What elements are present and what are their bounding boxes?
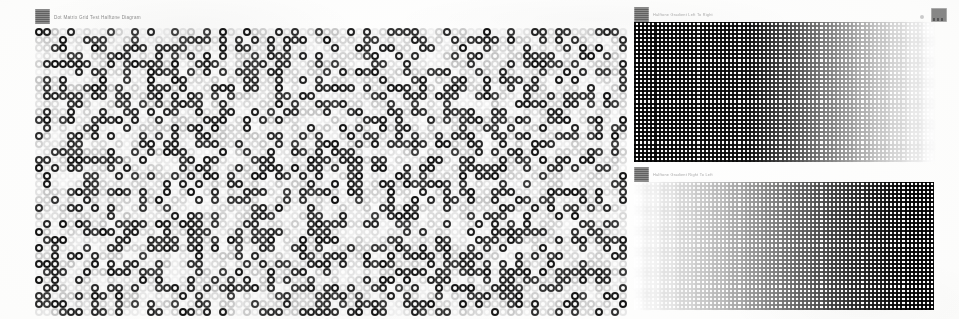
matrix-cell — [211, 204, 219, 212]
matrix-cell — [299, 156, 307, 164]
matrix-cell — [499, 236, 507, 244]
matrix-cell — [299, 252, 307, 260]
matrix-cell — [571, 44, 579, 52]
matrix-cell — [459, 140, 467, 148]
matrix-cell — [123, 100, 131, 108]
matrix-cell — [387, 252, 395, 260]
matrix-cell — [587, 220, 595, 228]
matrix-cell — [155, 236, 163, 244]
matrix-cell — [91, 260, 99, 268]
matrix-cell — [51, 28, 59, 36]
matrix-cell — [283, 268, 291, 276]
matrix-cell — [531, 196, 539, 204]
matrix-cell — [387, 276, 395, 284]
matrix-cell — [307, 228, 315, 236]
matrix-cell — [123, 68, 131, 76]
matrix-cell — [59, 132, 67, 140]
matrix-cell — [155, 164, 163, 172]
matrix-cell — [147, 212, 155, 220]
matrix-cell — [171, 188, 179, 196]
matrix-cell — [355, 100, 363, 108]
matrix-cell — [619, 260, 627, 268]
matrix-cell — [307, 140, 315, 148]
matrix-cell — [267, 44, 275, 52]
matrix-cell — [419, 68, 427, 76]
matrix-cell — [291, 68, 299, 76]
matrix-cell — [259, 236, 267, 244]
matrix-cell — [563, 84, 571, 92]
matrix-cell — [219, 164, 227, 172]
matrix-cell — [451, 172, 459, 180]
matrix-cell — [99, 36, 107, 44]
matrix-cell — [459, 124, 467, 132]
matrix-cell — [507, 292, 515, 300]
matrix-cell — [323, 268, 331, 276]
matrix-cell — [51, 52, 59, 60]
matrix-cell — [531, 300, 539, 308]
matrix-cell — [467, 44, 475, 52]
matrix-cell — [107, 164, 115, 172]
matrix-cell — [187, 228, 195, 236]
matrix-cell — [211, 300, 219, 308]
matrix-cell — [587, 156, 595, 164]
matrix-cell — [491, 252, 499, 260]
matrix-cell — [339, 116, 347, 124]
matrix-cell — [587, 244, 595, 252]
matrix-cell — [387, 292, 395, 300]
matrix-cell — [571, 84, 579, 92]
matrix-cell — [379, 68, 387, 76]
matrix-cell — [67, 292, 75, 300]
matrix-cell — [227, 84, 235, 92]
matrix-cell — [363, 228, 371, 236]
matrix-cell — [491, 60, 499, 68]
matrix-cell — [371, 180, 379, 188]
matrix-cell — [611, 300, 619, 308]
matrix-cell — [67, 148, 75, 156]
matrix-cell — [475, 188, 483, 196]
matrix-cell — [259, 140, 267, 148]
matrix-cell — [435, 36, 443, 44]
matrix-cell — [379, 92, 387, 100]
matrix-cell — [619, 36, 627, 44]
matrix-cell — [403, 300, 411, 308]
matrix-cell — [475, 308, 483, 316]
matrix-cell — [131, 44, 139, 52]
matrix-cell — [123, 268, 131, 276]
gradient-top-title: Halftone Gradient Left To Right — [653, 11, 713, 18]
matrix-cell — [435, 204, 443, 212]
matrix-cell — [203, 76, 211, 84]
matrix-cell — [171, 28, 179, 36]
matrix-cell — [395, 244, 403, 252]
matrix-cell — [555, 148, 563, 156]
matrix-cell — [563, 124, 571, 132]
matrix-cell — [587, 164, 595, 172]
matrix-cell — [35, 28, 43, 36]
matrix-cell — [123, 236, 131, 244]
matrix-cell — [347, 52, 355, 60]
matrix-cell — [363, 236, 371, 244]
matrix-cell — [603, 212, 611, 220]
matrix-cell — [235, 188, 243, 196]
matrix-cell — [115, 284, 123, 292]
matrix-cell — [131, 140, 139, 148]
matrix-cell — [443, 156, 451, 164]
matrix-cell — [427, 284, 435, 292]
matrix-cell — [595, 220, 603, 228]
matrix-cell — [579, 124, 587, 132]
matrix-cell — [51, 204, 59, 212]
matrix-cell — [371, 268, 379, 276]
matrix-cell — [331, 180, 339, 188]
matrix-cell — [523, 164, 531, 172]
matrix-cell — [91, 52, 99, 60]
matrix-cell — [299, 36, 307, 44]
matrix-cell — [339, 84, 347, 92]
matrix-cell — [427, 172, 435, 180]
matrix-cell — [571, 108, 579, 116]
matrix-cell — [619, 252, 627, 260]
matrix-cell — [51, 132, 59, 140]
matrix-cell — [187, 84, 195, 92]
matrix-cell — [291, 84, 299, 92]
matrix-cell — [331, 308, 339, 316]
matrix-cell — [315, 148, 323, 156]
matrix-cell — [483, 236, 491, 244]
